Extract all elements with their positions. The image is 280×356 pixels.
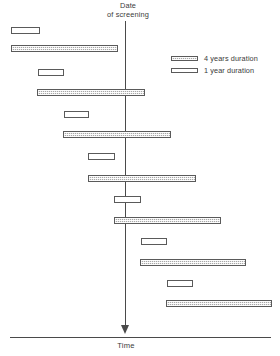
duration-bar-11 xyxy=(141,238,167,245)
duration-bar-8 xyxy=(88,175,196,182)
legend: 4 years duration 1 year duration xyxy=(171,52,258,76)
duration-bar-6 xyxy=(63,131,171,138)
screening-axis-title-line1: Date xyxy=(120,1,136,10)
legend-item-one-year: 1 year duration xyxy=(171,64,258,76)
screening-axis-title: Date of screening xyxy=(82,1,174,19)
duration-bar-3 xyxy=(38,69,64,76)
time-axis-line xyxy=(10,337,271,338)
legend-swatch-one-year-icon xyxy=(171,68,198,73)
legend-label-one-year: 1 year duration xyxy=(204,66,254,75)
duration-bar-9 xyxy=(114,196,141,203)
duration-bar-14 xyxy=(166,300,272,307)
duration-bar-13 xyxy=(167,280,193,287)
screening-axis-arrowhead-icon xyxy=(121,325,129,334)
duration-bar-2 xyxy=(11,45,118,52)
duration-bar-4 xyxy=(37,89,145,96)
duration-bar-1 xyxy=(11,27,40,34)
lead-time-bias-diagram: Date of screening 4 years duration 1 yea… xyxy=(0,0,280,356)
duration-bar-7 xyxy=(88,153,115,160)
legend-swatch-four-year-icon xyxy=(171,56,198,61)
duration-bar-10 xyxy=(114,217,221,224)
screening-axis-title-line2: of screening xyxy=(82,10,174,19)
duration-bar-5 xyxy=(64,111,89,118)
duration-bar-12 xyxy=(140,259,246,266)
legend-label-four-year: 4 years duration xyxy=(204,54,258,63)
legend-item-four-year: 4 years duration xyxy=(171,52,258,64)
time-axis-label: Time xyxy=(96,341,156,350)
